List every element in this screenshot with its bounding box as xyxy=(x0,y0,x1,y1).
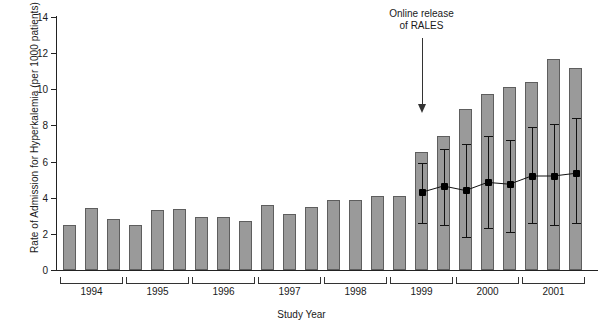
error-bar-cap-lower xyxy=(440,225,449,226)
year-bracket xyxy=(522,277,585,284)
trend-line xyxy=(57,17,597,270)
annotation-text: Online release of RALES xyxy=(352,8,492,32)
annotation-arrow-head-icon xyxy=(418,104,426,113)
y-tick-label: 4 xyxy=(22,198,48,199)
year-bracket xyxy=(60,277,123,284)
y-axis-title: Rate of Admission for Hyperkalemia (per … xyxy=(29,0,40,258)
y-tick-label: 14 xyxy=(22,17,48,18)
data-point-marker xyxy=(419,189,426,196)
data-point-marker xyxy=(441,183,448,190)
y-tick-label: 6 xyxy=(22,162,48,163)
year-bracket xyxy=(390,277,453,284)
error-bar-cap-upper xyxy=(528,127,537,128)
error-bar-cap-upper xyxy=(506,140,515,141)
year-label: 1994 xyxy=(60,286,123,297)
y-tick-label: 0 xyxy=(22,270,48,271)
y-tick-label: 10 xyxy=(22,89,48,90)
error-bar-cap-lower xyxy=(572,223,581,224)
y-tick-label: 8 xyxy=(22,125,48,126)
year-bracket xyxy=(456,277,519,284)
plot-area xyxy=(57,17,597,270)
error-bar-cap-lower xyxy=(484,228,493,229)
year-label: 1999 xyxy=(390,286,453,297)
annotation-line-2: of RALES xyxy=(352,20,492,32)
year-label: 1996 xyxy=(192,286,255,297)
year-label: 1998 xyxy=(324,286,387,297)
y-tick-label: 2 xyxy=(22,234,48,235)
year-label: 1995 xyxy=(126,286,189,297)
year-label: 2000 xyxy=(456,286,519,297)
annotation-arrow-shaft xyxy=(422,38,423,106)
data-point-marker xyxy=(485,179,492,186)
y-tick-mark xyxy=(51,270,57,271)
error-bar-cap-upper xyxy=(418,163,427,164)
error-bar-cap-upper xyxy=(440,149,449,150)
error-bar-cap-upper xyxy=(550,124,559,125)
year-bracket xyxy=(126,277,189,284)
error-bar-cap-upper xyxy=(572,118,581,119)
x-axis-line xyxy=(56,270,598,271)
annotation-line-1: Online release xyxy=(352,8,492,20)
data-point-marker xyxy=(573,170,580,177)
data-point-marker xyxy=(529,173,536,180)
error-bar-cap-lower xyxy=(550,225,559,226)
year-bracket xyxy=(258,277,321,284)
year-bracket xyxy=(192,277,255,284)
year-bracket xyxy=(324,277,387,284)
error-bar-cap-lower xyxy=(528,223,537,224)
y-tick-label: 12 xyxy=(22,53,48,54)
x-axis-title: Study Year xyxy=(0,309,603,320)
data-point-marker xyxy=(507,181,514,188)
line-series-with-error-bars xyxy=(57,17,597,270)
data-point-marker xyxy=(551,173,558,180)
error-bar-cap-upper xyxy=(462,144,471,145)
error-bar-cap-lower xyxy=(506,232,515,233)
error-bar-cap-lower xyxy=(462,237,471,238)
hyperkalemia-admission-rate-chart: Rate of Admission for Hyperkalemia (per … xyxy=(0,0,603,333)
error-bar-cap-lower xyxy=(418,223,427,224)
error-bar-cap-upper xyxy=(484,136,493,137)
year-label: 1997 xyxy=(258,286,321,297)
data-point-marker xyxy=(463,187,470,194)
year-label: 2001 xyxy=(522,286,585,297)
